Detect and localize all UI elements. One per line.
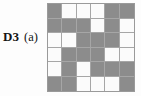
grid-cell-r5-c3 xyxy=(77,62,91,77)
grid-cell-r3-c2 xyxy=(62,33,76,48)
grid-cell-r5-c1 xyxy=(48,62,62,77)
pattern-grid xyxy=(47,3,135,92)
figure-label-id: D3 xyxy=(3,30,19,43)
grid-cell-r4-c2 xyxy=(62,48,76,63)
grid-cell-r6-c2 xyxy=(62,77,76,92)
grid-cell-r5-c4 xyxy=(91,62,105,77)
grid-cell-r4-c4 xyxy=(91,48,105,63)
grid-cell-r3-c5 xyxy=(105,33,119,48)
grid-cell-r4-c5 xyxy=(105,48,119,63)
grid-cell-r2-c6 xyxy=(120,19,134,34)
grid-cell-r3-c6 xyxy=(120,33,134,48)
grid-cell-r5-c5 xyxy=(105,62,119,77)
grid-cell-r5-c6 xyxy=(120,62,134,77)
grid-cell-r2-c5 xyxy=(105,19,119,34)
grid-cell-r3-c4 xyxy=(91,33,105,48)
grid-cell-r5-c2 xyxy=(62,62,76,77)
grid-cell-r3-c1 xyxy=(48,33,62,48)
grid-container xyxy=(47,3,135,92)
grid-cell-r6-c3 xyxy=(77,77,91,92)
grid-cell-r4-c3 xyxy=(77,48,91,63)
grid-cell-r6-c6 xyxy=(120,77,134,92)
grid-cell-r1-c1 xyxy=(48,4,62,19)
grid-cell-r1-c5 xyxy=(105,4,119,19)
grid-cell-r6-c5 xyxy=(105,77,119,92)
grid-cell-r6-c4 xyxy=(91,77,105,92)
grid-cell-r2-c4 xyxy=(91,19,105,34)
grid-cell-r2-c2 xyxy=(62,19,76,34)
figure-label-part: (a) xyxy=(24,31,38,44)
grid-cell-r3-c3 xyxy=(77,33,91,48)
grid-cell-r1-c2 xyxy=(62,4,76,19)
grid-cell-r1-c6 xyxy=(120,4,134,19)
grid-cell-r1-c4 xyxy=(91,4,105,19)
grid-cell-r2-c3 xyxy=(77,19,91,34)
grid-cell-r4-c1 xyxy=(48,48,62,63)
figure-container: D3 (a) xyxy=(0,0,141,96)
figure-label: D3 (a) xyxy=(3,30,38,44)
grid-cell-r1-c3 xyxy=(77,4,91,19)
grid-cell-r6-c1 xyxy=(48,77,62,92)
grid-cell-r2-c1 xyxy=(48,19,62,34)
grid-cell-r4-c6 xyxy=(120,48,134,63)
